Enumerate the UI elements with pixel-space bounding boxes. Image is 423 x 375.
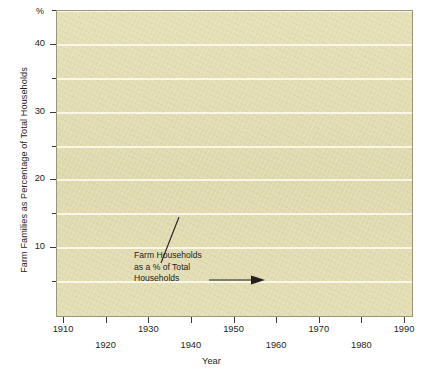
- x-axis-title: Year: [0, 356, 423, 366]
- data-point-markers: [60, 100, 409, 309]
- y-tick-label-10: 10: [19, 241, 45, 251]
- x-tick-1960: [276, 317, 277, 323]
- gridline-20: [57, 179, 412, 181]
- chart-figure: Farm Families as Percentage of Total Hou…: [0, 0, 423, 375]
- gridline-15: [57, 213, 412, 215]
- data-point-1980: [358, 290, 366, 298]
- callout-line-1: Farm Households: [134, 250, 202, 262]
- data-point-1960: [273, 251, 281, 259]
- gridline-5: [57, 281, 412, 283]
- x-tick-label-1970: 1970: [299, 324, 339, 334]
- farm-households-band: [64, 105, 405, 306]
- x-tick-1990: [404, 317, 405, 323]
- x-tick-1950: [234, 317, 235, 323]
- x-tick-label-1980: 1980: [341, 340, 381, 350]
- plot-area: [56, 10, 413, 317]
- y-tick-label-20: 20: [19, 173, 45, 183]
- callout-line-3: Households: [134, 273, 202, 285]
- y-tick-label-30: 30: [19, 106, 45, 116]
- gridline-10: [57, 247, 412, 249]
- gridline-30: [57, 112, 412, 114]
- x-tick-1970: [319, 317, 320, 323]
- data-point-1940: [188, 193, 196, 201]
- series-band: [57, 11, 412, 316]
- gridline-45: [57, 10, 412, 12]
- callout-line-2: as a % of Total: [134, 262, 202, 274]
- x-tick-label-1940: 1940: [171, 340, 211, 350]
- x-tick-1940: [191, 317, 192, 323]
- x-tick-1910: [63, 317, 64, 323]
- y-axis-unit-symbol: %: [36, 6, 44, 16]
- x-tick-1980: [361, 317, 362, 323]
- data-point-1920: [103, 130, 111, 138]
- data-point-1950: [230, 219, 238, 227]
- x-tick-label-1930: 1930: [128, 324, 168, 334]
- x-tick-1920: [106, 317, 107, 323]
- data-point-1930: [145, 160, 153, 168]
- gridline-40: [57, 44, 412, 46]
- data-point-1910: [60, 100, 68, 108]
- x-tick-label-1910: 1910: [43, 324, 83, 334]
- x-tick-label-1990: 1990: [384, 324, 423, 334]
- series-callout-text: Farm Households as a % of Total Househol…: [134, 250, 202, 285]
- data-point-1990: [401, 301, 409, 309]
- gridline-25: [57, 146, 412, 148]
- y-tick-label-40: 40: [19, 38, 45, 48]
- x-tick-label-1960: 1960: [256, 340, 296, 350]
- gridline-35: [57, 78, 412, 80]
- x-tick-1930: [148, 317, 149, 323]
- x-tick-label-1950: 1950: [214, 324, 254, 334]
- y-axis-title: Farm Families as Percentage of Total Hou…: [19, 20, 29, 320]
- x-tick-label-1920: 1920: [86, 340, 126, 350]
